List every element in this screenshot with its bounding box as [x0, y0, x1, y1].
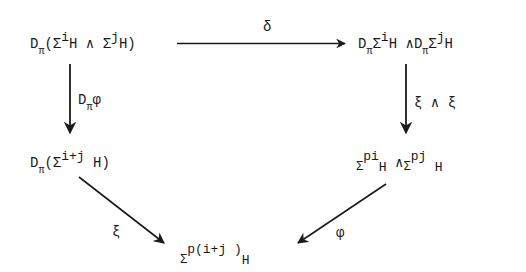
subscript-pi: π	[366, 46, 372, 57]
subscript-pi: π	[38, 165, 44, 176]
node-top-right: DπΣiH ∧DπΣjH	[358, 37, 453, 51]
symbol-sigma: Σ	[53, 155, 61, 171]
symbol-sigma: Σ	[372, 36, 380, 52]
label-xi: ξ	[112, 225, 120, 239]
subscript-pi: π	[86, 102, 92, 113]
superscript-p-i-plus-j: p(i+j )	[187, 242, 242, 257]
node-bottom: Σp(i+j )H	[180, 249, 250, 263]
symbol-H: H	[445, 36, 453, 52]
label-dpi-phi: Dπφ	[78, 93, 101, 107]
symbol-H: H	[379, 160, 387, 175]
wedge-symbol: ∧	[86, 36, 94, 52]
superscript-j: j	[437, 30, 445, 45]
superscript-pj: pj	[411, 149, 427, 164]
symbol-sigma: Σ	[103, 36, 111, 52]
symbol-sigma: Σ	[403, 160, 410, 174]
label-delta: δ	[263, 20, 271, 34]
superscript-i: i	[381, 30, 389, 45]
symbol-sigma: Σ	[428, 36, 436, 52]
superscript-pi: pi	[363, 149, 379, 164]
symbol-H: H	[242, 253, 250, 268]
label-phi: φ	[336, 226, 344, 240]
paren-open: (	[44, 36, 52, 52]
label-xi-wedge-xi: ξ ∧ ξ	[414, 96, 456, 110]
arrow-xi-diagonal	[79, 177, 164, 243]
paren-close: )	[101, 155, 109, 171]
wedge-symbol: ∧	[405, 36, 413, 52]
superscript-i: i	[61, 30, 69, 45]
node-mid-right: ΣpiH ∧Σpj H	[356, 156, 443, 170]
subscript-pi: π	[422, 46, 428, 57]
node-mid-left: Dπ(Σi+j H)	[30, 156, 110, 170]
superscript-i-plus-j: i+j	[61, 149, 84, 164]
symbol-H: H	[69, 36, 77, 52]
paren-open: (	[44, 155, 52, 171]
node-top-left: Dπ(ΣiH ∧ ΣjH)	[30, 37, 136, 51]
symbol-phi: φ	[92, 92, 100, 108]
superscript-j: j	[111, 30, 119, 45]
symbol-H: H	[435, 160, 443, 175]
symbol-H: H	[389, 36, 397, 52]
symbol-sigma: Σ	[53, 36, 61, 52]
subscript-pi: π	[38, 46, 44, 57]
paren-close: )	[127, 36, 135, 52]
